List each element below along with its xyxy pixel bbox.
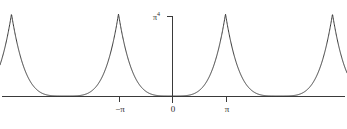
x-tick-label-pi: π: [213, 105, 241, 114]
y-axis-label: π4: [153, 11, 160, 22]
x-tick-label-minus-pi: −π: [106, 105, 134, 114]
y-axis-label-exponent: 4: [157, 11, 160, 17]
x-tick-label-zero: 0: [159, 105, 187, 114]
data-curve: [0, 14, 347, 96]
chart-figure: π4 −π 0 π: [0, 0, 347, 129]
